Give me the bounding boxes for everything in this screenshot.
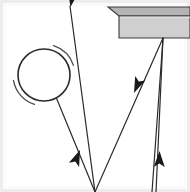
beam-front-face <box>119 16 190 38</box>
figure-container <box>0 0 190 192</box>
support-beam <box>108 7 190 38</box>
beam-top-face <box>108 7 190 16</box>
pulley-circle <box>18 49 70 101</box>
mechanics-diagram <box>0 0 190 192</box>
